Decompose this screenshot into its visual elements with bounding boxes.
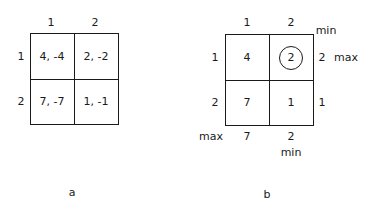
column-header-1: 1 — [244, 17, 251, 29]
panel-a-caption: a — [69, 186, 76, 199]
grid-divider-horizontal — [31, 79, 118, 80]
panel-b-caption: b — [264, 188, 271, 201]
grid-divider-horizontal — [226, 80, 313, 81]
row-2-minimum: 1 — [319, 97, 326, 109]
column-min-label: min — [281, 147, 302, 159]
cell-2-2: 1 — [288, 97, 295, 109]
column-header-1: 1 — [48, 17, 55, 29]
cell-1-1: 4 — [244, 52, 251, 64]
cell-1-2-saddle-point: 2 — [288, 52, 295, 64]
column-header-2: 2 — [92, 17, 99, 29]
column-max-label: max — [199, 131, 223, 143]
cell-2-1: 7, -7 — [40, 96, 65, 108]
row-header-2: 2 — [18, 96, 25, 108]
cell-2-2: 1, -1 — [84, 96, 109, 108]
row-header-1: 1 — [18, 51, 25, 63]
cell-1-1: 4, -4 — [40, 51, 65, 63]
payoff-matrix-a — [30, 33, 119, 125]
column-2-maximum: 2 — [288, 131, 295, 143]
column-header-2: 2 — [288, 17, 295, 29]
row-minima-label: min — [316, 25, 337, 37]
row-1-minimum: 2 — [319, 52, 326, 64]
cell-2-1: 7 — [244, 97, 251, 109]
cell-1-2: 2, -2 — [84, 51, 109, 63]
row-header-1: 1 — [212, 52, 219, 64]
row-header-2: 2 — [212, 97, 219, 109]
column-1-maximum: 7 — [244, 131, 251, 143]
row-max-label: max — [334, 52, 358, 64]
payoff-matrix-b — [225, 34, 314, 126]
